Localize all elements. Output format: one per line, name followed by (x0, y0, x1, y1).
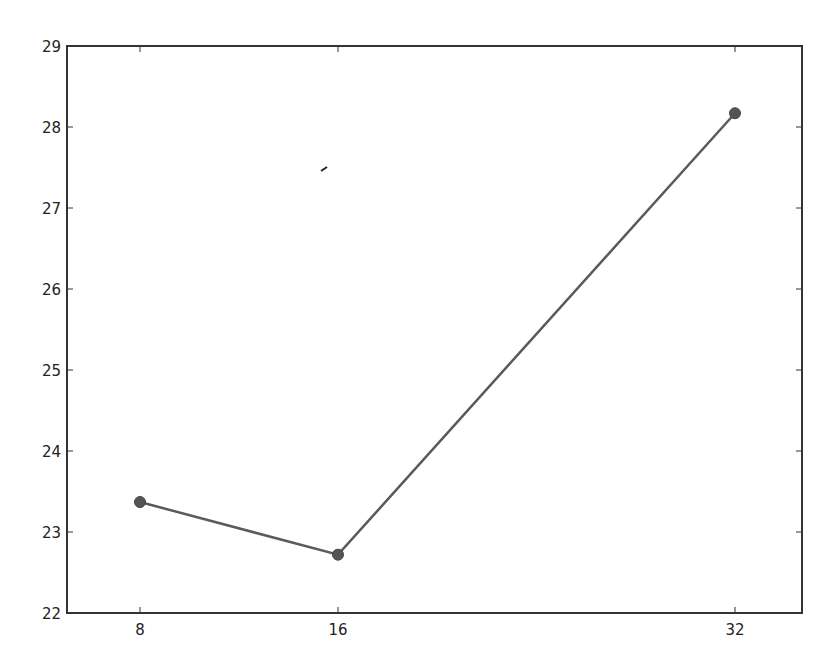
x-tick-label: 32 (725, 621, 744, 639)
x-tick-label: 8 (135, 621, 145, 639)
stray-mark (321, 167, 327, 171)
y-tick-label: 27 (42, 200, 61, 218)
y-tick-label: 29 (42, 38, 61, 56)
data-line (140, 113, 735, 554)
x-tick-label: 16 (328, 621, 347, 639)
y-tick-label: 25 (42, 362, 61, 380)
y-tick-label: 26 (42, 281, 61, 299)
x-axis: 81632 (135, 46, 744, 639)
plot-area-frame (67, 46, 802, 613)
y-tick-label: 22 (42, 605, 61, 623)
y-tick-label: 28 (42, 119, 61, 137)
data-point-marker (135, 497, 146, 508)
data-markers (135, 108, 741, 560)
line-chart: 2223242526272829 81632 (0, 0, 836, 667)
data-point-marker (730, 108, 741, 119)
y-axis: 2223242526272829 (42, 38, 802, 623)
y-tick-label: 23 (42, 524, 61, 542)
data-point-marker (333, 549, 344, 560)
y-tick-label: 24 (42, 443, 61, 461)
